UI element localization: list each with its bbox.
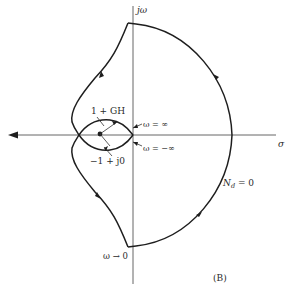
- arrow-right-upper-icon: [213, 74, 219, 80]
- label-omega-inf: ω = ∞: [143, 120, 168, 129]
- vector-to-lower: [100, 134, 110, 146]
- left-s-curve-upper: [72, 23, 128, 135]
- label-critical-point: −1 + j0: [90, 156, 125, 166]
- imaginary-axis-label: jω: [135, 5, 148, 15]
- label-nd-zero: Nd = 0: [222, 178, 254, 190]
- label-one-plus-gh: 1 + GH: [91, 106, 125, 116]
- label-omega-neg-inf: ω = −∞: [143, 144, 175, 153]
- left-s-curve-lower: [72, 135, 128, 247]
- inner-loop-upper: [79, 120, 133, 135]
- inner-arrow-neginf-icon: [133, 142, 138, 146]
- inner-arrow-inf-icon: [133, 124, 138, 128]
- label-nd-eq: = 0: [235, 178, 254, 188]
- label-omega-to-zero: ω → 0: [103, 251, 128, 261]
- axes: [8, 6, 276, 284]
- panel-label: (B): [213, 273, 227, 283]
- real-axis-arrow-icon: [8, 132, 18, 139]
- real-axis-label: σ: [278, 139, 285, 149]
- nyquist-contour-diagram: jω σ 1 + GH ω = ∞ ω = −∞ −1 + j0 Nd = 0 …: [0, 0, 289, 284]
